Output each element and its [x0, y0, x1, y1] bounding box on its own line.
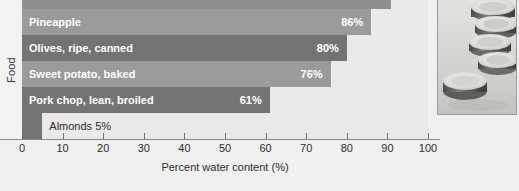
bar-category-value-label: Almonds 5% [49, 120, 111, 132]
bar-value-label: 76% [301, 68, 323, 80]
bar-row: Olives, ripe, canned80% [22, 35, 428, 61]
bar-row-cropped [22, 0, 428, 9]
x-tick-label: 90 [381, 142, 393, 154]
y-axis-title: Food [0, 0, 22, 139]
x-axis-tick-labels: 0102030405060708090100 [22, 142, 428, 156]
x-tick-label: 70 [300, 142, 312, 154]
bar-value-label: 61% [240, 94, 262, 106]
x-tick [103, 133, 104, 139]
sliced-cucumber-photo [437, 0, 517, 115]
plot-area: Pineapple86%Olives, ripe, canned80%Sweet… [22, 0, 428, 139]
x-tick-label: 80 [341, 142, 353, 154]
x-tick-label: 60 [259, 142, 271, 154]
bar-category-label: Olives, ripe, canned [29, 42, 133, 54]
bar-category-label: Pineapple [29, 16, 81, 28]
x-tick-label: 20 [97, 142, 109, 154]
bar-row: Pineapple86% [22, 9, 428, 35]
y-axis-title-label: Food [5, 57, 17, 83]
x-tick [428, 133, 429, 139]
x-tick-label: 0 [19, 142, 25, 154]
x-tick [144, 133, 145, 139]
x-tick [387, 133, 388, 139]
bar-row: Pork chop, lean, broiled61% [22, 87, 428, 113]
x-axis-ticks [22, 133, 428, 140]
figure-caption [0, 183, 519, 191]
x-tick-label: 100 [419, 142, 437, 154]
x-tick-label: 30 [138, 142, 150, 154]
bar-value-label: 80% [317, 42, 339, 54]
x-tick [266, 133, 267, 139]
x-tick [306, 133, 307, 139]
x-tick-label: 10 [56, 142, 68, 154]
x-tick [63, 133, 64, 139]
bar-category-label: Sweet potato, baked [29, 68, 135, 80]
x-tick [184, 133, 185, 139]
x-tick [347, 133, 348, 139]
bar-value-label: 86% [341, 16, 363, 28]
x-tick [225, 133, 226, 139]
bar-cropped [22, 0, 391, 9]
x-tick-label: 50 [219, 142, 231, 154]
x-axis-title: Percent water content (%) [22, 161, 428, 173]
bar-row: Sweet potato, baked76% [22, 61, 428, 87]
x-tick [22, 133, 23, 139]
x-tick-label: 40 [178, 142, 190, 154]
water-content-bar-chart-figure: Food Pineapple86%Olives, ripe, canned80%… [0, 0, 519, 191]
bar-category-label: Pork chop, lean, broiled [29, 94, 154, 106]
